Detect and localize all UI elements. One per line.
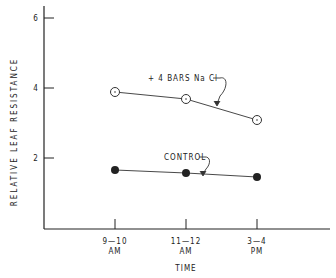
series-nacl — [111, 88, 262, 125]
y-axis-label: RELATIVE LEAF RESISTANCE — [10, 58, 19, 207]
x-tick-label: AM — [179, 247, 192, 256]
x-tick-label: PM — [251, 247, 264, 256]
y-tick-label: 4 — [33, 84, 39, 93]
y-tick-label: 2 — [33, 154, 39, 163]
y-tick-label: 6 — [33, 14, 39, 23]
x-ticks — [115, 219, 257, 229]
x-tick-label: 3—4 — [247, 237, 266, 246]
filled-circle-marker — [111, 166, 119, 174]
x-tick-label: 9—10 — [103, 237, 128, 246]
series-control — [111, 166, 261, 181]
nacl-annotation: + 4 BARS Na Cl — [148, 74, 218, 83]
control-annotation: CONTROL — [164, 153, 206, 162]
x-tick-label: 11—12 — [171, 237, 202, 246]
filled-circle-marker — [182, 169, 190, 177]
chart: 6 4 2 RELATIVE LEAF RESISTANCE 9—10 AM 1… — [0, 0, 336, 278]
x-tick-label: AM — [108, 247, 121, 256]
x-axis-label: TIME — [174, 264, 196, 273]
filled-circle-marker — [253, 173, 261, 181]
